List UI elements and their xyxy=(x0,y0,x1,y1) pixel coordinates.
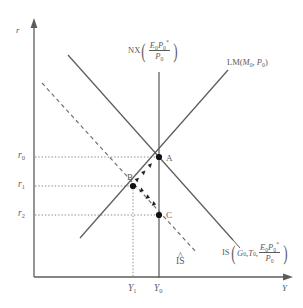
lm-curve xyxy=(80,70,228,238)
point-A-marker xyxy=(156,154,162,160)
is-hat-curve xyxy=(42,83,196,252)
y-axis-arrowhead xyxy=(31,18,38,28)
y-axis-label: r xyxy=(16,26,20,35)
is-hat-curve-label: ^IS xyxy=(176,257,184,267)
is-lm-nx-diagram: r Y r0 r1 r2 Y1 Y0 A B C NX(E0P0*P0) LM(… xyxy=(0,0,303,308)
guide-lines-group xyxy=(35,157,159,277)
tick-label-r0: r0 xyxy=(18,151,25,161)
point-B-marker xyxy=(130,183,136,189)
adjustment-path-group xyxy=(135,163,156,206)
curves-group xyxy=(42,55,233,278)
tick-label-Y0: Y0 xyxy=(154,284,163,294)
point-label-B: B xyxy=(127,173,133,182)
is-curve xyxy=(68,55,233,240)
point-label-C: C xyxy=(166,211,172,220)
point-label-A: A xyxy=(166,154,173,163)
arrow-B-to-C xyxy=(140,188,157,206)
x-axis-label: Y xyxy=(282,284,287,293)
tick-label-r1: r1 xyxy=(18,180,25,190)
tick-label-Y1: Y1 xyxy=(128,284,137,294)
is-curve-label: IS(G0, T0, E0P0*P0) xyxy=(222,243,289,263)
lm-curve-label: LM(M0, P0) xyxy=(227,58,268,67)
nx-curve-label: NX(E0P0*P0) xyxy=(128,41,179,61)
point-C-marker xyxy=(156,212,162,218)
x-axis-arrowhead xyxy=(283,274,293,281)
tick-label-r2: r2 xyxy=(18,209,25,219)
